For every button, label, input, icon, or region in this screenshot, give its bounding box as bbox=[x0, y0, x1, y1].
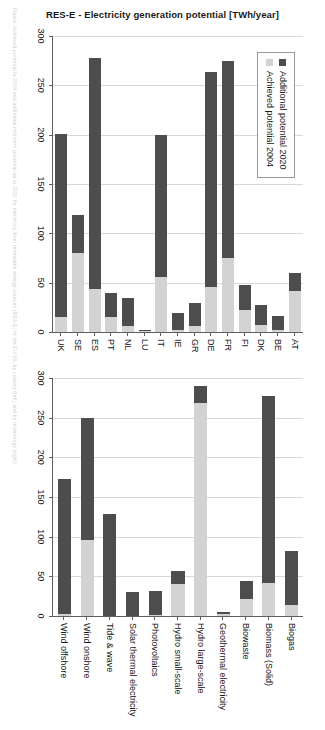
scanned-page-rotated: RES-E - Electricity generation potential… bbox=[0, 0, 325, 730]
category-tick bbox=[245, 616, 246, 620]
legend-swatch-additional bbox=[279, 59, 286, 66]
category-tick bbox=[177, 616, 178, 620]
category-axis bbox=[53, 332, 303, 333]
axis-tick-label: 150 bbox=[36, 170, 46, 198]
category-label: IE bbox=[172, 339, 184, 348]
category-label: LU bbox=[139, 339, 151, 351]
bar-segment-additional-2020 bbox=[189, 303, 201, 326]
legend-label: Achieved potential 2004 bbox=[263, 71, 276, 167]
legend-item: Additional potential 2020 bbox=[276, 59, 289, 170]
category-tick bbox=[86, 616, 87, 620]
category-label: BE bbox=[272, 339, 284, 351]
bar-segment-additional-2020 bbox=[262, 396, 275, 582]
bar-segment-additional-2020 bbox=[122, 298, 134, 326]
category-tick bbox=[294, 332, 295, 336]
bar-segment-additional-2020 bbox=[171, 571, 184, 584]
category-tick bbox=[177, 332, 178, 336]
category-label: DE bbox=[205, 339, 217, 352]
bar-segment-additional-2020 bbox=[240, 581, 253, 598]
bar-row bbox=[72, 36, 84, 332]
bar-row bbox=[103, 378, 116, 616]
legend-item: Achieved potential 2004 bbox=[263, 59, 276, 170]
bar-segment-additional-2020 bbox=[217, 612, 230, 614]
category-label: DK bbox=[255, 339, 267, 352]
axis-tick-label: 50 bbox=[36, 562, 46, 590]
category-label: Geothermal electricity bbox=[217, 623, 229, 710]
axis-title: RES-E - Electricity generation potential… bbox=[0, 2, 325, 28]
category-label: Tide & wave bbox=[104, 623, 116, 672]
bar-segment-achieved-2004 bbox=[149, 615, 162, 616]
bar-segment-additional-2020 bbox=[272, 316, 284, 330]
bar-segment-achieved-2004 bbox=[55, 317, 67, 332]
bar-segment-additional-2020 bbox=[172, 313, 184, 330]
bar-row bbox=[189, 36, 201, 332]
axis-tick-label: 0 bbox=[36, 318, 46, 346]
bar-segment-achieved-2004 bbox=[239, 310, 251, 332]
axis-tick-label: 200 bbox=[36, 443, 46, 471]
bar-segment-additional-2020 bbox=[285, 551, 298, 605]
bar-segment-additional-2020 bbox=[255, 305, 267, 325]
category-label: FI bbox=[239, 339, 251, 347]
category-tick bbox=[222, 616, 223, 620]
category-label: ES bbox=[89, 339, 101, 351]
bar-row bbox=[105, 36, 117, 332]
category-tick bbox=[291, 616, 292, 620]
axis-tick-label: 150 bbox=[36, 483, 46, 511]
category-label: Solar thermal electricity bbox=[127, 623, 139, 717]
bar-segment-achieved-2004 bbox=[272, 330, 284, 332]
axis-tick-label: 0 bbox=[36, 602, 46, 630]
category-label: Wind offshore bbox=[58, 623, 70, 678]
bar-segment-additional-2020 bbox=[222, 61, 234, 258]
category-tick bbox=[77, 332, 78, 336]
bar-row bbox=[55, 36, 67, 332]
category-label: Photovoltaics bbox=[149, 623, 161, 677]
bar-segment-additional-2020 bbox=[289, 273, 301, 291]
category-label: Biowaste bbox=[240, 623, 252, 660]
chart-by-technology: 050100150200250300BiogasBiomass (Solid)B… bbox=[0, 368, 325, 730]
category-label: AT bbox=[289, 339, 301, 350]
bar-row bbox=[172, 36, 184, 332]
bar-segment-achieved-2004 bbox=[105, 317, 117, 332]
category-label: Biogas bbox=[286, 623, 298, 651]
bar-row bbox=[149, 378, 162, 616]
legend-swatch-achieved bbox=[266, 59, 273, 66]
category-tick bbox=[227, 332, 228, 336]
bar-row bbox=[285, 378, 298, 616]
category-label: FR bbox=[222, 339, 234, 351]
bar-segment-additional-2020 bbox=[81, 418, 94, 539]
legend-label: Additional potential 2020 bbox=[276, 71, 289, 170]
bar-segment-achieved-2004 bbox=[171, 584, 184, 616]
category-tick bbox=[277, 332, 278, 336]
axis-tick-label: 100 bbox=[36, 219, 46, 247]
axis-tick-label: 100 bbox=[36, 523, 46, 551]
axis-tick-label: 300 bbox=[36, 364, 46, 392]
bar-segment-achieved-2004 bbox=[89, 289, 101, 332]
category-tick bbox=[210, 332, 211, 336]
category-label: Hydro small-scale bbox=[172, 623, 184, 695]
category-tick bbox=[194, 332, 195, 336]
bar-segment-achieved-2004 bbox=[139, 331, 151, 332]
bar-segment-achieved-2004 bbox=[194, 403, 207, 616]
bar-row bbox=[58, 378, 71, 616]
category-tick bbox=[260, 332, 261, 336]
bar-segment-achieved-2004 bbox=[189, 326, 201, 332]
bar-row bbox=[122, 36, 134, 332]
category-tick bbox=[200, 616, 201, 620]
bar-segment-achieved-2004 bbox=[72, 253, 84, 332]
category-label: GR bbox=[189, 339, 201, 353]
bar-segment-additional-2020 bbox=[103, 514, 116, 616]
category-label: NL bbox=[122, 339, 134, 351]
bar-row bbox=[239, 36, 251, 332]
chart-by-country: RES-E - Electricity generation potential… bbox=[0, 0, 325, 368]
value-axis bbox=[52, 36, 53, 332]
category-label: SE bbox=[72, 339, 84, 351]
category-tick bbox=[160, 332, 161, 336]
bar-row bbox=[171, 378, 184, 616]
bar-row bbox=[217, 378, 230, 616]
category-tick bbox=[132, 616, 133, 620]
bar-segment-achieved-2004 bbox=[262, 583, 275, 616]
bar-segment-additional-2020 bbox=[72, 215, 84, 253]
bar-segment-additional-2020 bbox=[194, 386, 207, 403]
bar-row bbox=[262, 378, 275, 616]
category-tick bbox=[60, 332, 61, 336]
